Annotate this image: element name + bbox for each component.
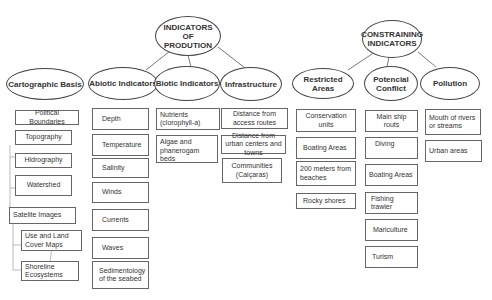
category-cartographic: Cartographic Basis <box>6 68 84 100</box>
production-root-node: INDICATORS OF PRODUTION <box>155 16 221 56</box>
item-temperature: Temperature <box>92 134 149 156</box>
item-topography: Topography <box>15 130 72 145</box>
item-waves: Waves <box>92 237 149 259</box>
category-abiotic: Abiotic Indicators <box>88 67 158 100</box>
category-conflict: Potencial Conflict <box>364 66 418 101</box>
item-winds: Winds <box>92 182 149 203</box>
item-fishing-trawler: Fishing trawler <box>365 192 418 214</box>
constraining-root-node: CONSTRAINING INDICATORS <box>362 20 422 58</box>
item-shoreline-ecosystems: Shoreline Ecosystems <box>21 261 79 281</box>
item-diving: Diving <box>365 137 418 159</box>
item-hidrography: Hidrography <box>15 153 72 168</box>
item-rocky-shores: Rocky shores <box>296 193 356 209</box>
item-conservation-units: Conservation units <box>296 109 356 132</box>
item-salinity: Salinity <box>92 158 149 178</box>
item-turism: Turism <box>365 246 418 268</box>
category-infrastructure: Infrastructure <box>220 67 282 101</box>
category-biotic: Biotic Indicators <box>154 66 220 101</box>
item-communities: Communities (Caiçaras) <box>222 158 282 183</box>
item-watershed: Watershed <box>15 175 72 196</box>
item-satelite-images: Satelite Images <box>9 207 76 224</box>
item-depth: Depth <box>92 108 149 130</box>
item-land-cover-maps: Use and Land Cover Maps <box>21 230 82 251</box>
item-200-meters: 200 meters from beaches <box>296 161 356 186</box>
category-restricted: Restricted Areas <box>292 68 354 99</box>
item-distance-access-routes: Distance from access routes <box>221 108 288 129</box>
item-mariculture: Mariculture <box>365 219 418 241</box>
item-mouth-of-rivers: Mouth of rivers or streams <box>425 109 481 135</box>
item-distance-urban-centers: Distance from urban centers and towns <box>221 135 286 154</box>
item-currents: Currents <box>92 209 149 231</box>
item-algae: Algae and phanerogam beds <box>156 135 218 163</box>
indicators-diagram: INDICATORS OF PRODUTION CONSTRAINING IND… <box>0 0 492 300</box>
item-main-ship-routs: Main ship routs <box>365 110 418 132</box>
item-urban-areas: Urban areas <box>425 140 482 162</box>
category-pollution: Pollution <box>420 67 480 100</box>
item-political-boundaries: Political Boundaries <box>15 110 79 125</box>
item-sedimentology: Sedimentology of the seabed <box>92 261 149 289</box>
item-boating-areas-conflict: Boating Areas <box>365 164 418 186</box>
item-boating-areas-restricted: Boating Areas <box>296 137 356 159</box>
item-nutrients: Nutrients (clorophyll-a) <box>156 108 220 130</box>
